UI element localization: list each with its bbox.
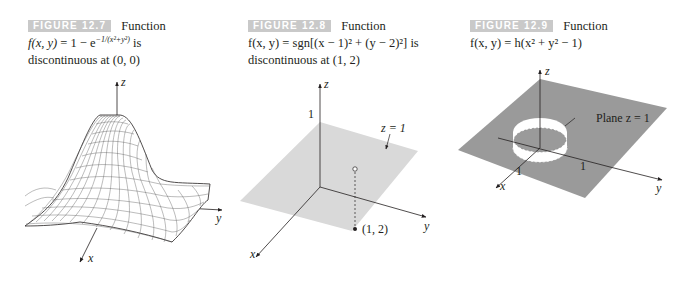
z-axis-label: z	[120, 75, 126, 89]
point-label: (1, 2)	[362, 222, 388, 236]
y-axis-label: y	[655, 181, 662, 195]
y-tick-1: 1	[580, 159, 586, 173]
z-axis-label: z	[544, 64, 550, 78]
z-tick-1: 1	[308, 107, 314, 121]
y-axis-label: y	[215, 211, 222, 225]
x-tick-1: 1	[516, 164, 522, 178]
x-axis-label: x	[249, 247, 256, 261]
z-axis-label: z	[323, 77, 329, 91]
y-axis-label: y	[423, 219, 430, 233]
plane-label: Plane z = 1	[596, 111, 650, 125]
x-axis-label: x	[87, 251, 94, 265]
figure-12-7-plot: z y x	[25, 75, 222, 265]
figure-12-9-plot: z Plane z = 1 1 1 y x	[458, 64, 667, 198]
open-point	[353, 167, 357, 171]
plane-label: z = 1	[380, 121, 406, 135]
y-axis	[610, 167, 662, 180]
x-axis-label: x	[499, 179, 506, 193]
plane-z-1	[240, 122, 418, 231]
figures-canvas: z y x z 1 z = 1 (1, 2) y x	[0, 0, 691, 285]
filled-point	[353, 227, 357, 231]
figure-12-8-plot: z 1 z = 1 (1, 2) y x	[240, 77, 430, 261]
